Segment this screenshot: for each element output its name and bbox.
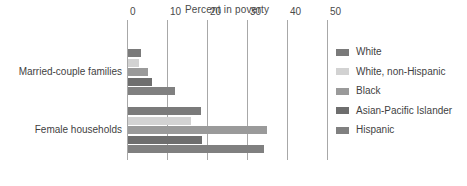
- x-tick-label: 40: [287, 6, 301, 17]
- legend-item[interactable]: Hispanic: [336, 122, 452, 138]
- category-axis-labels: Married-couple familiesFemale households: [0, 0, 122, 186]
- bar: [128, 49, 141, 57]
- bar: [128, 126, 267, 134]
- legend-item[interactable]: Asian-Pacific Islander: [336, 103, 452, 119]
- legend-swatch-icon: [336, 49, 349, 56]
- legend-swatch-icon: [336, 107, 349, 114]
- bar: [128, 107, 201, 115]
- gridline-20: [207, 20, 208, 160]
- x-tick-label: 30: [247, 6, 261, 17]
- plot-area: 01020304050: [127, 20, 327, 160]
- legend-item[interactable]: White, non-Hispanic: [336, 64, 452, 80]
- legend-label: Asian-Pacific Islander: [356, 106, 452, 116]
- legend-label: White, non-Hispanic: [356, 67, 445, 77]
- gridline-50: [327, 20, 328, 160]
- bar: [128, 117, 191, 125]
- legend-label: Hispanic: [356, 125, 394, 135]
- bar: [128, 136, 202, 144]
- chart-legend: WhiteWhite, non-HispanicBlackAsian-Pacif…: [336, 44, 452, 142]
- category-label: Married-couple families: [19, 66, 122, 77]
- gridline-40: [287, 20, 288, 160]
- bar: [128, 87, 175, 95]
- x-tick-label: 20: [207, 6, 221, 17]
- legend-swatch-icon: [336, 88, 349, 95]
- legend-label: Black: [356, 86, 380, 96]
- legend-swatch-icon: [336, 127, 349, 134]
- legend-swatch-icon: [336, 68, 349, 75]
- bar: [128, 68, 148, 76]
- bar: [128, 59, 139, 67]
- bar: [128, 145, 264, 153]
- legend-item[interactable]: Black: [336, 83, 452, 99]
- gridline-30: [247, 20, 248, 160]
- x-tick-label: 50: [327, 6, 341, 17]
- bar: [128, 78, 152, 86]
- x-tick-label: 10: [167, 6, 181, 17]
- legend-label: White: [356, 47, 382, 57]
- legend-item[interactable]: White: [336, 44, 452, 60]
- poverty-bar-chart: Percent in poverty Married-couple famili…: [0, 0, 467, 186]
- category-label: Female households: [35, 124, 122, 135]
- x-tick-label: 0: [127, 6, 136, 17]
